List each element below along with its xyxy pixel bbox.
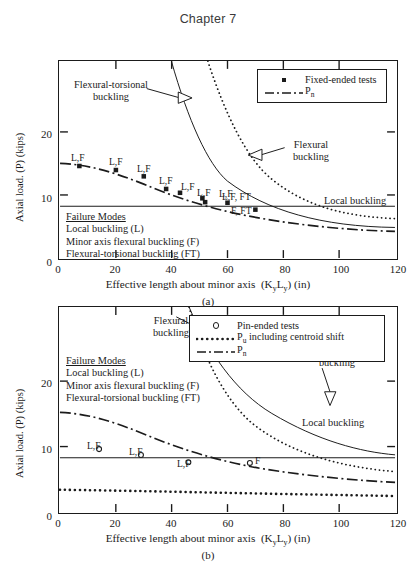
figure-a-point-label-9: F, FT [231,206,252,216]
figure-b-failure-mode-3: Flexural-torsional buckling (FT) [66,392,200,404]
figure-a-failure-mode-3: Flexural-torsional buckling (FT) [66,248,200,260]
figure-b-failure-mode-2: Minor axis flexural buckling (F) [66,380,200,392]
figure-a-point-label-8: L,F, FT [222,192,251,202]
figure-a-legend-label-1: Fixed-ended tests [305,74,377,86]
figure-a-ytick-20: 20 [26,129,52,140]
figure-a-legend-label-2: Pn [305,85,314,100]
figure-a-xtick-0: 0 [41,264,75,275]
figure-b-panel-id: (b) [0,549,416,561]
figure-b-local-buckling-label: Local buckling [302,417,364,428]
dotted-line-icon [195,335,237,343]
figure-a-plot-area: L,F L,F L,F L,F L,F L,F L,F L,F, FT F, F… [58,60,398,260]
figure-b-xtick-20: 20 [98,518,132,529]
figure-a-point-label-5: L,F [181,182,195,192]
figure-a-legend: Fixed-ended tests Pn [257,69,387,103]
dashdot-line-icon [263,89,305,97]
figure-a-annotation-flexural-torsional: Flexural-torsional buckling [65,79,157,102]
figure-a-legend-item-pn: Pn [263,86,379,99]
figure-b-failure-modes-heading: Failure Modes [66,355,200,367]
figure-b-point-label-1: L,F [87,441,101,451]
figure-a-xtick-40: 40 [154,264,188,275]
figure-a-point-label-1: L,F [71,153,85,163]
figure-b-y-axis-label: Axial load. (P) (kips) [14,389,25,478]
figure-a-xtick-20: 20 [98,264,132,275]
figure-a-failure-modes: Failure Modes Local buckling (L) Minor a… [66,211,200,260]
data-point [253,207,258,212]
figure-a-point-label-2: L,F [109,157,123,167]
figure-a-legend-item-fixed-ended: Fixed-ended tests [263,73,379,86]
data-point [114,168,119,173]
figure-b-pu-curve [60,490,395,496]
figure-b-point-label-2: L,F [129,447,143,457]
figure-b-legend-label-2: Pu including centroid shift [237,331,344,346]
figure-b-xtick-100: 100 [324,518,358,529]
figure-b-legend-label-1: Pin-ended tests [237,320,299,332]
figure-a-ytick-10: 10 [26,193,52,204]
data-point [142,174,147,179]
figure-b-legend-item-pu: Pu including centroid shift [195,332,377,345]
figure-b-failure-modes: Failure Modes Local buckling (L) Minor a… [66,355,200,404]
figure-a-point-label-7: L,F [197,188,211,198]
figure-b-xtick-80: 80 [268,518,302,529]
figure-page: Chapter 7 Axial load. (P) (kips) 0 10 20 [0,0,416,572]
figure-b-xtick-120: 120 [381,518,415,529]
figure-b-point-label-4: F [255,456,260,466]
figure-a: Axial load. (P) (kips) 0 10 20 [0,52,416,292]
figure-a-point-label-3: L,F [137,164,151,174]
figure-b-xtick-60: 60 [211,518,245,529]
figure-b-data-points [97,447,253,466]
figure-a-y-axis-label: Axial load. (P) (kips) [14,133,25,222]
square-marker-icon [263,78,305,82]
figure-a-failure-mode-1: Local buckling (L) [66,223,200,235]
figure-b-xtick-0: 0 [41,518,75,529]
figure-b-legend-item-pin-ended: Pin-ended tests [195,319,377,332]
dashdot-line-icon [195,348,237,356]
figure-a-fb-arrow [248,148,284,161]
figure-a-xtick-100: 100 [324,264,358,275]
figure-b-xtick-40: 40 [154,518,188,529]
figure-b-point-label-3: L,F [177,459,191,469]
figure-a-point-label-4: L,F [159,176,173,186]
figure-b: Axial load. (P) (kips) 0 10 20 [0,298,416,564]
figure-a-xtick-80: 80 [268,264,302,275]
figure-b-legend: Pin-ended tests Pu including centroid sh… [189,315,385,362]
page-title: Chapter 7 [0,12,416,26]
figure-a-failure-modes-heading: Failure Modes [66,211,200,223]
figure-b-x-axis-label: Effective length about minor axis (KyLy)… [0,532,416,547]
circle-marker-icon [195,322,237,329]
figure-a-xtick-60: 60 [211,264,245,275]
figure-b-ft-arrow [322,368,336,405]
figure-b-legend-item-pn: Pn [195,345,377,358]
figure-a-x-axis-label: Effective length about minor axis (KyLy)… [0,278,416,293]
figure-b-plot-area: L,F L,F L,F F Flexural buckling Flexural… [58,306,398,514]
figure-b-failure-mode-1: Local buckling (L) [66,367,200,379]
figure-b-ytick-10: 10 [26,444,52,455]
figure-b-ytick-20: 20 [26,378,52,389]
data-point [247,460,252,465]
data-point [164,187,169,192]
data-point [203,200,208,205]
figure-a-xtick-120: 120 [381,264,415,275]
data-point [77,164,82,169]
figure-b-legend-label-3: Pn [237,344,246,359]
figure-a-failure-mode-2: Minor axis flexural buckling (F) [66,236,200,248]
figure-a-annotation-flexural-buckling: Flexural buckling [281,139,341,162]
figure-a-local-buckling-label: Local buckling [324,195,386,206]
